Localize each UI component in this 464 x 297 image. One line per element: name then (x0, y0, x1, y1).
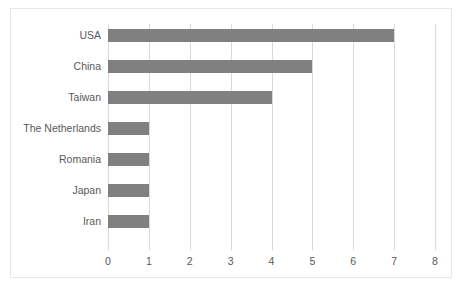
category-label-1: China (74, 60, 101, 73)
xtick-label-4: 4 (260, 254, 284, 268)
gridline-4 (272, 24, 273, 250)
category-label-4: Romania (59, 153, 101, 166)
xtick-label-3: 3 (219, 254, 243, 268)
bar-usa (108, 29, 394, 42)
bar-chart: USA China Taiwan The Netherlands Romania… (0, 0, 464, 297)
bar-china (108, 60, 312, 73)
xtick-label-5: 5 (300, 254, 324, 268)
xtick-label-2: 2 (178, 254, 202, 268)
gridline-6 (353, 24, 354, 250)
xtick-label-8: 8 (423, 254, 447, 268)
xtick-label-1: 1 (137, 254, 161, 268)
bar-taiwan (108, 91, 272, 104)
xtick-label-6: 6 (341, 254, 365, 268)
bar-romania (108, 153, 149, 166)
gridline-7 (394, 24, 395, 250)
category-label-5: Japan (72, 184, 101, 197)
gridline-2 (190, 24, 191, 250)
category-label-2: Taiwan (68, 91, 101, 104)
category-label-6: Iran (83, 215, 101, 228)
gridline-8 (435, 24, 436, 250)
xtick-label-7: 7 (382, 254, 406, 268)
gridline-3 (231, 24, 232, 250)
plot-area (108, 24, 435, 250)
category-label-3: The Netherlands (23, 122, 101, 135)
gridline-5 (312, 24, 313, 250)
category-axis-labels: USA China Taiwan The Netherlands Romania… (0, 24, 101, 250)
gridline-1 (149, 24, 150, 250)
category-label-0: USA (79, 29, 101, 42)
bar-japan (108, 184, 149, 197)
bar-iran (108, 215, 149, 228)
xtick-label-0: 0 (96, 254, 120, 268)
bar-the-netherlands (108, 122, 149, 135)
